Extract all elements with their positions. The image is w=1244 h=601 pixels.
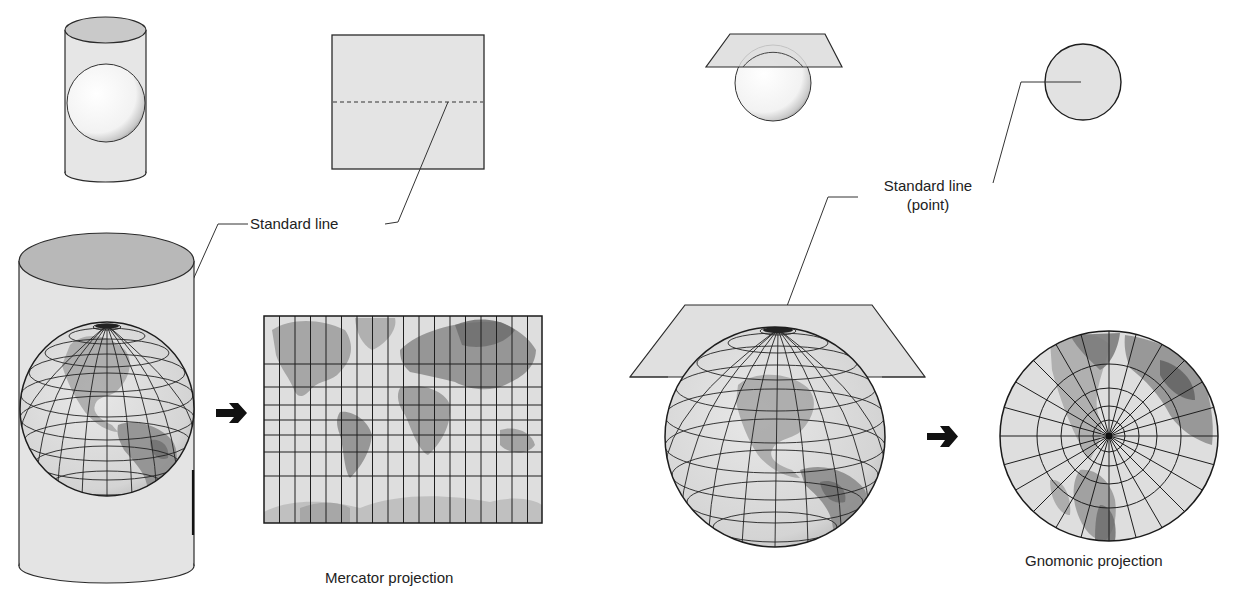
standard-point-label-planar: (point) <box>860 196 996 213</box>
large-cylinder-diagram <box>19 233 194 583</box>
standard-line-label-planar: Standard line <box>860 177 996 194</box>
gnomonic-projection-caption: Gnomonic projection <box>1025 552 1163 569</box>
gnomonic-map <box>999 326 1219 546</box>
unrolled-cylinder-diagram <box>332 35 484 169</box>
cylinder-top-cap <box>19 233 194 289</box>
right-arrow-icon <box>927 426 958 447</box>
right-arrow-icon <box>216 403 247 423</box>
small-cylinder-diagram <box>65 17 146 182</box>
map-projection-figure: Standard line Mercator projection Standa… <box>0 0 1244 601</box>
small-plane-diagram <box>706 34 842 121</box>
globe-right <box>665 327 885 548</box>
figure-canvas <box>0 0 1244 601</box>
standard-line-label-cylindrical: Standard line <box>250 215 338 232</box>
mercator-map <box>264 316 542 523</box>
large-plane-diagram <box>630 305 925 548</box>
mercator-projection-caption: Mercator projection <box>325 569 453 586</box>
